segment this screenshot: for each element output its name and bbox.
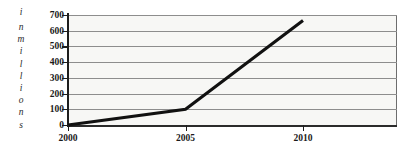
x-axis-tick-mark (68, 125, 69, 131)
x-axis-tick-label: 2005 (176, 133, 195, 143)
y-axis-tick-mark (62, 46, 68, 47)
y-axis-tick-mark (62, 94, 68, 95)
x-axis-tick-label: 2000 (59, 133, 78, 143)
x-axis-tick-mark (303, 125, 304, 131)
line-chart-figure: i n m i l l i o n s 01002003004005006007… (0, 0, 414, 152)
y-axis-tick-mark (62, 109, 68, 110)
x-axis-tick-label: 2010 (294, 133, 313, 143)
y-axis-tick-mark (62, 15, 68, 16)
y-axis-tick-mark (62, 31, 68, 32)
x-axis-tick-mark (186, 125, 187, 131)
series-polyline (68, 21, 303, 126)
data-series-line (0, 0, 414, 152)
y-axis-tick-mark (62, 62, 68, 63)
y-axis-tick-mark (62, 78, 68, 79)
